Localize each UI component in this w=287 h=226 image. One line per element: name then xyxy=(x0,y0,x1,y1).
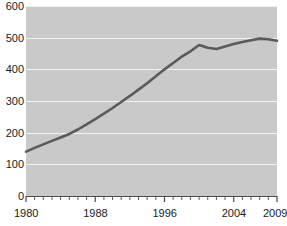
x-tick-label: 1988 xyxy=(83,208,107,219)
line-chart: 0100200300400500600 19801988199620042009 xyxy=(0,0,287,226)
y-tick-label: 400 xyxy=(0,64,24,75)
gridline xyxy=(26,101,277,102)
y-axis: 0100200300400500600 xyxy=(0,0,24,226)
x-axis-baseline xyxy=(26,196,277,197)
gridline xyxy=(26,164,277,165)
x-tick-label: 1996 xyxy=(152,208,176,219)
y-tick-label: 100 xyxy=(0,159,24,170)
x-tick-label: 2009 xyxy=(263,208,287,219)
y-tick-label: 200 xyxy=(0,128,24,139)
y-tick-label: 500 xyxy=(0,33,24,44)
x-tick-label: 2004 xyxy=(222,208,246,219)
plot-area xyxy=(26,6,277,196)
x-tick-label: 1980 xyxy=(14,208,38,219)
y-tick-label: 300 xyxy=(0,96,24,107)
x-axis: 19801988199620042009 xyxy=(0,196,287,226)
gridline xyxy=(26,133,277,134)
gridline xyxy=(26,38,277,39)
gridline xyxy=(26,69,277,70)
gridline xyxy=(26,6,277,7)
y-tick-label: 600 xyxy=(0,1,24,12)
